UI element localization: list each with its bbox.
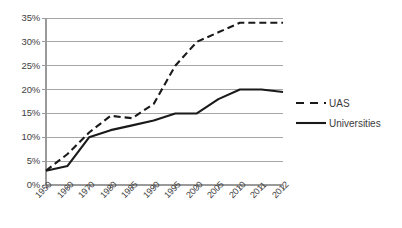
legend-label-uas: UAS xyxy=(329,98,350,109)
legend-label-universities: Universities xyxy=(329,118,381,129)
y-tick-label: 35% xyxy=(8,12,40,23)
y-tick-label: 0% xyxy=(8,179,40,190)
y-tick-label: 20% xyxy=(8,84,40,95)
y-tick-label: 25% xyxy=(8,60,40,71)
chart-container: 0%5%10%15%20%25%30%35% 19501960197019801… xyxy=(0,0,402,228)
y-tick-label: 5% xyxy=(8,155,40,166)
legend-line-samples xyxy=(296,103,326,123)
data-series-lines xyxy=(46,23,283,171)
gridlines xyxy=(46,18,283,185)
y-tick-label: 30% xyxy=(8,36,40,47)
y-tick-label: 15% xyxy=(8,107,40,118)
series-line-universities xyxy=(46,90,283,171)
y-tick-label: 10% xyxy=(8,131,40,142)
